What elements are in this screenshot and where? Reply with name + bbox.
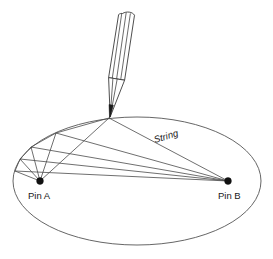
- pin-b-label: Pin B: [218, 190, 241, 201]
- pin-a-dot: [37, 178, 44, 185]
- string-segment-b1: [109, 118, 228, 181]
- trace-chord-4: [15, 159, 20, 171]
- string-label: String: [152, 127, 180, 145]
- string-segment-b3: [31, 147, 228, 181]
- ellipse-string-diagram: Pin A Pin B String: [0, 0, 273, 259]
- string-segment-b5: [15, 171, 228, 181]
- pin-b-dot: [225, 178, 232, 185]
- pin-a-label: Pin A: [28, 190, 51, 201]
- string-segment-b4: [20, 159, 228, 181]
- string-lines-group: [15, 118, 228, 181]
- trace-chord-3: [20, 147, 31, 159]
- string-segment-a5: [15, 171, 40, 181]
- diagram-canvas: Pin A Pin B String: [0, 0, 273, 259]
- pencil: [109, 12, 135, 118]
